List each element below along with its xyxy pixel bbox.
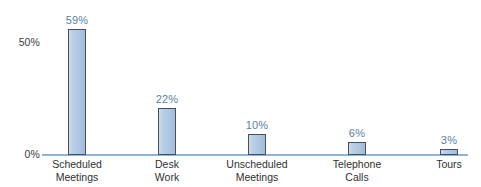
bar-value-label: 3% bbox=[441, 134, 457, 146]
bar-chart: 50% 0% 59%ScheduledMeetings22%DeskWork10… bbox=[0, 0, 481, 187]
bar-value-label: 22% bbox=[156, 93, 179, 105]
bar[interactable] bbox=[440, 149, 458, 155]
bar[interactable] bbox=[248, 134, 266, 155]
bar[interactable] bbox=[348, 142, 366, 155]
bar-group: 6%TelephoneCalls bbox=[309, 0, 405, 187]
bar-value-label: 10% bbox=[246, 119, 269, 131]
x-axis-category-label: Tours bbox=[401, 158, 481, 171]
bar-value-label: 59% bbox=[66, 14, 89, 26]
bar-group: 3%Tours bbox=[401, 0, 481, 187]
plot-area: 59%ScheduledMeetings22%DeskWork10%Unsche… bbox=[0, 0, 481, 187]
x-axis-category-label: ScheduledMeetings bbox=[29, 158, 125, 183]
bar-value-label: 6% bbox=[349, 127, 365, 139]
bar-group: 59%ScheduledMeetings bbox=[29, 0, 125, 187]
x-axis-category-label: UnscheduledMeetings bbox=[209, 158, 305, 183]
bar[interactable] bbox=[158, 108, 176, 155]
x-axis-category-label: DeskWork bbox=[119, 158, 215, 183]
bar-group: 10%UnscheduledMeetings bbox=[209, 0, 305, 187]
bar[interactable] bbox=[68, 29, 86, 155]
x-axis-category-label: TelephoneCalls bbox=[309, 158, 405, 183]
bar-group: 22%DeskWork bbox=[119, 0, 215, 187]
